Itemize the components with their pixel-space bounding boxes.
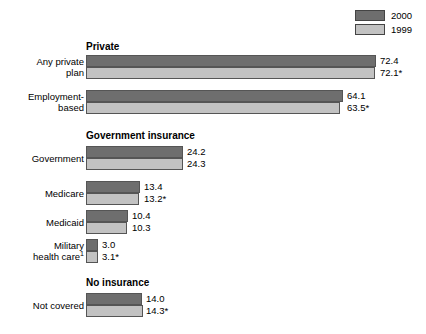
bar-value-medicaid-2000: 10.4 [132, 210, 151, 222]
bar-employment-based-2000 [86, 90, 343, 102]
legend-item-1999: 1999 [355, 23, 412, 36]
category-label-military-health-care-line1: Military [0, 240, 84, 251]
health-insurance-coverage-bar-chart: 2000 1999 Private Any private plan 72.4 … [0, 0, 426, 334]
bar-value-government-2000: 24.2 [187, 146, 206, 158]
bar-value-medicaid-1999: 10.3 [132, 222, 151, 234]
legend-swatch-2000-icon [355, 10, 385, 21]
bar-not-covered-1999 [86, 305, 143, 317]
category-label-any-private-plan-line2: plan [0, 67, 84, 78]
bar-value-medicare-1999: 13.2* [144, 193, 166, 205]
bar-value-military-health-care-1999: 3.1* [102, 251, 119, 263]
chart-legend: 2000 1999 [355, 9, 412, 37]
legend-item-2000: 2000 [355, 9, 412, 22]
bar-medicare-1999 [86, 193, 139, 205]
category-label-employment-based-line2: based [0, 102, 84, 113]
bar-medicaid-1999 [86, 222, 127, 234]
legend-swatch-1999-icon [355, 24, 385, 35]
legend-label-2000: 2000 [391, 10, 412, 21]
bar-value-employment-based-1999: 63.5* [347, 102, 369, 114]
section-header-no-insurance: No insurance [86, 277, 149, 288]
bar-medicare-2000 [86, 181, 140, 193]
category-label-medicare: Medicare [0, 188, 84, 199]
bar-medicaid-2000 [86, 210, 128, 222]
bar-value-military-health-care-2000: 3.0 [102, 239, 115, 251]
category-label-government: Government [0, 153, 84, 164]
legend-label-1999: 1999 [391, 24, 412, 35]
footnote-marker-military: 1 [80, 250, 84, 257]
bar-value-government-1999: 24.3 [187, 158, 206, 170]
bar-military-health-care-2000 [86, 239, 98, 251]
section-header-private: Private [86, 41, 119, 52]
category-label-military-health-care-text: health care [33, 251, 80, 262]
bar-value-medicare-2000: 13.4 [144, 181, 163, 193]
bar-government-1999 [86, 158, 183, 170]
bar-not-covered-2000 [86, 293, 142, 305]
bar-value-any-private-plan-2000: 72.4 [380, 55, 399, 67]
category-label-any-private-plan-line1: Any private [0, 56, 84, 67]
bar-any-private-plan-1999 [86, 67, 375, 79]
section-header-government-insurance: Government insurance [86, 130, 195, 141]
bar-employment-based-1999 [86, 102, 340, 114]
category-label-employment-based-line1: Employment- [0, 91, 84, 102]
bar-military-health-care-1999 [86, 251, 98, 263]
bar-government-2000 [86, 146, 183, 158]
category-label-medicaid: Medicaid [0, 217, 84, 228]
category-label-military-health-care-line2: health care1 [0, 251, 84, 262]
bar-value-employment-based-2000: 64.1 [347, 90, 366, 102]
category-label-not-covered: Not covered [0, 300, 84, 311]
bar-value-any-private-plan-1999: 72.1* [380, 67, 402, 79]
bar-value-not-covered-2000: 14.0 [146, 293, 165, 305]
bar-value-not-covered-1999: 14.3* [146, 305, 168, 317]
bar-any-private-plan-2000 [86, 55, 376, 67]
